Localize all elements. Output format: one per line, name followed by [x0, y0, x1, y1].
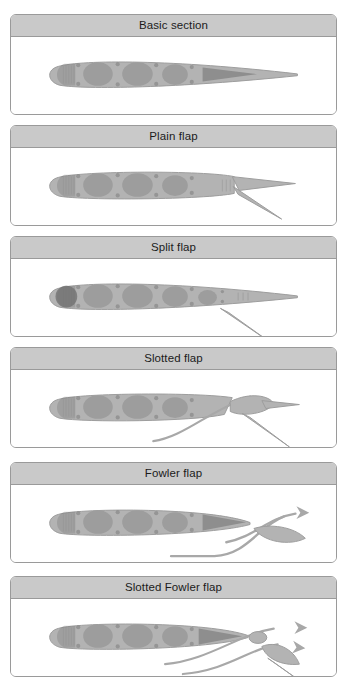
airfoil-diagram-basic-section — [11, 37, 336, 115]
panel-plain-flap: Plain flap — [10, 125, 337, 226]
panel-title-slotted-flap: Slotted flap — [11, 348, 336, 370]
flap-types-figure: Basic sectionPlain flapSplit flapSlotted… — [0, 0, 347, 691]
panel-slotted-fowler-flap: Slotted Fowler flap — [10, 576, 337, 677]
panel-split-flap: Split flap — [10, 236, 337, 337]
panel-title-plain-flap: Plain flap — [11, 126, 336, 148]
airfoil-diagram-slotted-fowler-flap — [11, 599, 336, 677]
panel-title-fowler-flap: Fowler flap — [11, 463, 336, 485]
panel-title-split-flap: Split flap — [11, 237, 336, 259]
airfoil-diagram-slotted-flap — [11, 370, 336, 448]
panel-slotted-flap: Slotted flap — [10, 347, 337, 448]
panel-title-basic-section: Basic section — [11, 15, 336, 37]
airfoil-diagram-split-flap — [11, 259, 336, 337]
panel-title-slotted-fowler-flap: Slotted Fowler flap — [11, 577, 336, 599]
airfoil-diagram-fowler-flap — [11, 485, 336, 563]
panel-fowler-flap: Fowler flap — [10, 462, 337, 563]
panel-basic-section: Basic section — [10, 14, 337, 115]
airfoil-diagram-plain-flap — [11, 148, 336, 226]
